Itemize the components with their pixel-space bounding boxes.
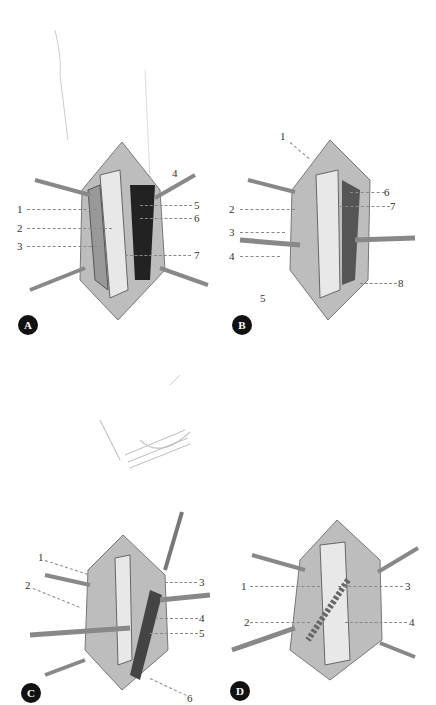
label-b-5: 5	[260, 293, 266, 304]
label-c-4: 4	[199, 613, 205, 624]
label-a-5: 5	[194, 200, 200, 211]
surgical-illustration-d	[220, 500, 436, 705]
label-c-5: 5	[199, 628, 205, 639]
label-b-4: 4	[229, 251, 235, 262]
label-d-1: 1	[241, 581, 247, 592]
label-b-7: 7	[390, 201, 396, 212]
label-b-3: 3	[229, 227, 235, 238]
label-c-1: 1	[38, 552, 44, 563]
panel-d: 1 2 3 4 D	[220, 500, 436, 705]
label-b-1: 1	[280, 131, 286, 142]
panel-badge-d: D	[230, 681, 250, 701]
label-a-6: 6	[194, 213, 200, 224]
label-c-6: 6	[187, 693, 193, 704]
panel-b: 1 2 3 4 5 6 7 8 B	[220, 120, 436, 360]
surgical-illustration-b	[220, 120, 436, 360]
panel-c: 1 2 3 4 5 6 C	[0, 500, 220, 705]
panel-badge-c: C	[21, 683, 41, 703]
label-b-8: 8	[398, 278, 404, 289]
label-a-1: 1	[17, 204, 23, 215]
surgical-illustration-c	[0, 500, 220, 705]
label-a-3: 3	[17, 241, 23, 252]
panel-badge-b: B	[232, 315, 252, 335]
label-c-2: 2	[25, 580, 31, 591]
label-c-3: 3	[199, 577, 205, 588]
label-d-2: 2	[244, 617, 250, 628]
panel-badge-a: A	[18, 315, 38, 335]
label-d-3: 3	[405, 581, 411, 592]
label-a-7: 7	[194, 250, 200, 261]
label-d-4: 4	[409, 617, 415, 628]
label-a-2: 2	[17, 223, 23, 234]
panel-a: 1 2 3 4 5 6 7 A	[0, 130, 220, 360]
label-b-2: 2	[229, 204, 235, 215]
label-a-4: 4	[172, 168, 178, 179]
label-b-6: 6	[384, 187, 390, 198]
